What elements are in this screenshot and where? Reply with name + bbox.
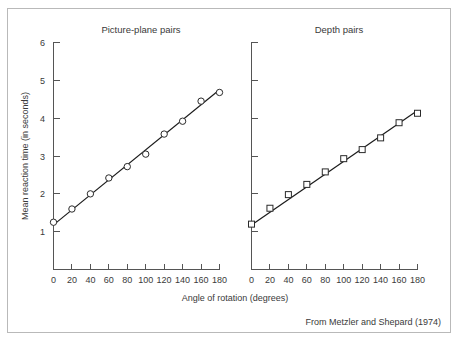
x-tick-label: 180 xyxy=(212,275,227,285)
data-point-circle xyxy=(216,89,222,95)
panel-title-left: Picture-plane pairs xyxy=(101,24,180,35)
data-point-circle xyxy=(50,219,56,225)
x-tick-label: 80 xyxy=(320,275,330,285)
data-point-square xyxy=(378,135,384,141)
x-tick-labels-right: 0 20 40 60 80 100 120 140 160 180 xyxy=(249,275,425,285)
y-tick-label: 5 xyxy=(40,76,45,86)
x-tick-label: 20 xyxy=(67,275,77,285)
x-tick-label: 140 xyxy=(175,275,190,285)
x-tick-label: 120 xyxy=(355,275,370,285)
data-point-square xyxy=(267,205,273,211)
chart-canvas: Picture-plane pairs 6 5 4 3 2 1 Mean r xyxy=(0,0,459,341)
x-tick-label: 60 xyxy=(104,275,114,285)
x-axis-left xyxy=(54,264,220,270)
data-point-square xyxy=(249,221,255,227)
x-tick-label: 20 xyxy=(265,275,275,285)
x-tick-label: 0 xyxy=(51,275,56,285)
data-point-circle xyxy=(198,98,204,104)
data-point-circle xyxy=(143,151,149,157)
x-tick-label: 60 xyxy=(302,275,312,285)
panel-title-right: Depth pairs xyxy=(315,24,364,35)
data-point-square xyxy=(359,147,365,153)
data-point-circle xyxy=(124,163,130,169)
data-point-square xyxy=(396,120,402,126)
x-tick-label: 0 xyxy=(249,275,254,285)
panel-picture-plane-pairs: Picture-plane pairs 6 5 4 3 2 1 Mean r xyxy=(20,24,227,285)
x-tick-label: 160 xyxy=(391,275,406,285)
y-tick-label: 1 xyxy=(40,227,45,237)
y-tick-label: 3 xyxy=(40,152,45,162)
y-tick-label: 2 xyxy=(40,189,45,199)
y-axis-left xyxy=(54,42,60,269)
data-point-circle xyxy=(161,131,167,137)
x-tick-label: 40 xyxy=(85,275,95,285)
data-point-square xyxy=(415,110,421,116)
y-axis-title: Mean reaction time (in seconds) xyxy=(20,92,30,220)
x-tick-label: 180 xyxy=(410,275,425,285)
x-tick-label: 140 xyxy=(373,275,388,285)
panel-depth-pairs: Depth pairs xyxy=(249,24,426,285)
x-tick-label: 40 xyxy=(283,275,293,285)
data-point-square xyxy=(341,156,347,162)
data-point-circle xyxy=(106,175,112,181)
source-caption: From Metzler and Shepard (1974) xyxy=(305,317,441,327)
x-axis-title: Angle of rotation (degrees) xyxy=(182,293,289,303)
x-tick-label: 100 xyxy=(138,275,153,285)
data-point-square xyxy=(285,192,291,198)
x-tick-label: 120 xyxy=(157,275,172,285)
y-tick-labels-left: 6 5 4 3 2 1 xyxy=(40,38,45,237)
x-tick-label: 160 xyxy=(193,275,208,285)
data-point-square xyxy=(322,169,328,175)
x-axis-right xyxy=(252,264,418,270)
x-tick-label: 100 xyxy=(336,275,351,285)
trend-line-right xyxy=(252,111,418,225)
y-tick-label: 6 xyxy=(40,38,45,48)
y-axis-right xyxy=(252,42,258,269)
x-tick-labels-left: 0 20 40 60 80 100 120 140 160 180 xyxy=(51,275,227,285)
data-point-circle xyxy=(69,206,75,212)
y-tick-label: 4 xyxy=(40,114,45,124)
data-point-square xyxy=(304,181,310,187)
figure-container: Picture-plane pairs 6 5 4 3 2 1 Mean r xyxy=(0,0,459,341)
x-tick-label: 80 xyxy=(122,275,132,285)
trend-line-left xyxy=(54,90,220,225)
data-point-circle xyxy=(87,191,93,197)
data-point-circle xyxy=(179,118,185,124)
